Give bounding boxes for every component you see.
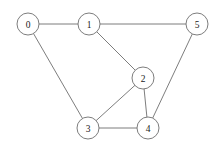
- graph-edge-2-4: [144, 89, 147, 117]
- graph-canvas: 012345: [0, 0, 218, 146]
- graph-diagram: 012345: [0, 0, 218, 146]
- graph-edge-1-2: [97, 32, 135, 70]
- graph-node-4[interactable]: 4: [137, 117, 159, 139]
- graph-node-1[interactable]: 1: [78, 13, 100, 35]
- node-layer: 012345: [17, 13, 208, 139]
- graph-edge-2-3: [96, 85, 135, 120]
- graph-edge-4-5: [153, 34, 193, 118]
- edge-layer: [34, 24, 193, 128]
- graph-node-label-2: 2: [141, 74, 146, 84]
- graph-edge-0-3: [34, 34, 83, 119]
- graph-node-2[interactable]: 2: [132, 67, 154, 89]
- graph-node-5[interactable]: 5: [186, 13, 208, 35]
- graph-node-3[interactable]: 3: [77, 117, 99, 139]
- graph-node-label-0: 0: [26, 20, 31, 30]
- graph-node-label-5: 5: [195, 20, 200, 30]
- graph-node-label-4: 4: [146, 124, 151, 134]
- graph-node-0[interactable]: 0: [17, 13, 39, 35]
- graph-node-label-3: 3: [86, 124, 91, 134]
- graph-node-label-1: 1: [87, 20, 92, 30]
